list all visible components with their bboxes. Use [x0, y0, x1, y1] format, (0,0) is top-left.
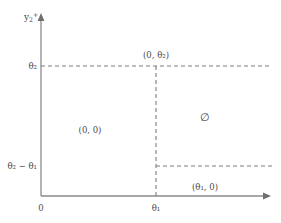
origin-label: 0	[38, 204, 43, 213]
label-empty-set: ∅	[200, 112, 210, 123]
y-axis-label-superscript: +	[33, 11, 38, 18]
x-axis-arrowhead	[263, 193, 271, 200]
solution-region-diagram: y2+ θ₂ θ₂ − θ₁ 0 θ₁ (0, θ₂) (0, 0) ∅ (θ₁…	[0, 0, 281, 223]
x-tick-label-theta1: θ₁	[152, 204, 161, 213]
y-axis-label: y2+	[24, 13, 38, 22]
y-tick-label-theta2: θ₂	[28, 62, 37, 71]
label-theta1-0: (θ₁, 0)	[192, 183, 218, 192]
label-0-0: (0, 0)	[79, 126, 102, 135]
y-tick-label-theta2-minus-theta1: θ₂ − θ₁	[7, 162, 37, 171]
y-axis-arrowhead	[38, 13, 45, 21]
diagram-canvas	[0, 0, 281, 223]
label-0-theta2: (0, θ₂)	[143, 51, 169, 60]
